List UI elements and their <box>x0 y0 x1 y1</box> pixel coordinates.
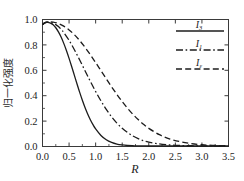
x-tick-label: 2.0 <box>142 151 155 162</box>
x-tick-label: 3.5 <box>222 151 235 162</box>
y-tick-label: 0.6 <box>24 65 37 76</box>
x-axis-title: R <box>130 162 139 176</box>
y-axis-title: 归一化强度 <box>2 58 14 108</box>
x-tick-label: 1.0 <box>89 151 102 162</box>
y-tick-label: 0.4 <box>24 90 38 101</box>
chart-figure: 0.00.51.01.52.02.53.03.5 0.00.20.40.60.8… <box>0 0 244 181</box>
y-tick-label: 1.0 <box>24 14 37 25</box>
legend-label-subscript-1: 1 <box>199 43 202 50</box>
x-tick-label: 0.0 <box>36 151 49 162</box>
line-chart: 0.00.51.01.52.02.53.03.5 0.00.20.40.60.8… <box>0 0 244 181</box>
y-tick-label: 0.2 <box>24 116 37 127</box>
x-tick-label: 3.0 <box>195 151 208 162</box>
x-tick-label: 1.5 <box>116 151 129 162</box>
x-tick-label: 0.5 <box>63 151 76 162</box>
x-tick-label: 2.5 <box>169 151 182 162</box>
y-tick-label: 0.0 <box>24 141 37 152</box>
y-tick-label: 0.8 <box>24 40 37 51</box>
legend-label-subscript-2: ε <box>199 62 202 69</box>
